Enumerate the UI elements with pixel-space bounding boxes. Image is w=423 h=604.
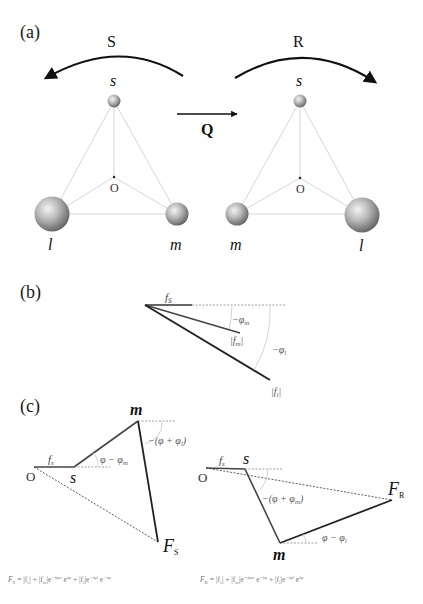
q-operator-label: Q: [201, 121, 213, 138]
fl-vector: [145, 305, 270, 380]
formula-fs: FS = |fs| + |fm|e−iφm eiφ + |fl|e−iφl e−…: [7, 575, 111, 585]
atom-s-sphere-icon: [108, 95, 121, 108]
panel-b: (b) fs −φm |fm| −φl |fl|: [20, 282, 286, 399]
origin-label: O: [26, 469, 35, 484]
r-operator-label: R: [293, 33, 304, 50]
atom-s-sphere-icon: [294, 95, 307, 108]
r-operation-arrow: R: [235, 33, 375, 82]
q-operation-arrow: Q: [177, 114, 237, 138]
phi-l-label: −φl: [272, 344, 286, 357]
atom-m-sphere-icon: [226, 203, 249, 226]
angle-phi-minus-phim-label: φ − φm: [100, 454, 128, 467]
vertex-l-label: l: [359, 237, 364, 254]
panel-b-label: (b): [20, 282, 41, 303]
s-label: s: [70, 469, 76, 486]
vertex-m-label: m: [170, 236, 182, 253]
panel-c-label: (c): [20, 396, 40, 417]
angle-phi-minus-phil-label: φ − φl: [322, 532, 347, 545]
phi-m-label: −φm: [232, 314, 249, 327]
resultant-fs: [34, 467, 158, 542]
panel-c: (c) O s m fs φ − φm −(φ + φl) FS: [20, 396, 405, 563]
fs-resultant-label: FS: [162, 536, 178, 557]
fr-structure-factor-diagram: O s m fs −(φ + φm) φ − φl FR: [198, 450, 405, 563]
center-point-icon: [113, 176, 115, 178]
atom-m-sphere-icon: [166, 203, 189, 226]
m-label: m: [273, 546, 285, 563]
fr-resultant-label: FR: [387, 479, 405, 500]
angle-arc: [260, 469, 268, 490]
center-o-label: O: [296, 182, 305, 196]
s-label: s: [243, 450, 249, 467]
fs-label: fs: [48, 453, 54, 467]
left-tetrahedron: s O l m: [35, 72, 189, 253]
angle-neg-phi-plus-phil-label: −(φ + φl): [148, 435, 187, 448]
vertex-s-label: s: [110, 72, 116, 89]
m-label: m: [130, 401, 142, 418]
atom-l-sphere-icon: [35, 197, 70, 232]
angle-arc-phi-l: [254, 305, 270, 370]
symmetry-diagram: (a) S R Q s O: [0, 0, 423, 604]
s-operator-label: S: [107, 33, 116, 50]
panel-a: (a) S R Q s O: [20, 22, 380, 254]
formula-fr: FR = |fs| + |fm|e−iφm e−iφ + |fl|e−iφl e…: [199, 575, 303, 585]
fs-segment: [206, 468, 245, 469]
vertex-l-label: l: [48, 236, 53, 253]
fm-magnitude-label: |fm|: [230, 335, 243, 348]
origin-label: O: [198, 470, 207, 485]
center-point-icon: [299, 177, 301, 179]
fs-label: fs: [165, 291, 172, 305]
fm-vector: [145, 305, 240, 333]
fl-magnitude-label: |fl|: [271, 386, 281, 399]
atom-l-sphere-icon: [345, 198, 380, 233]
right-tetrahedron: s O m l: [226, 72, 380, 254]
fs-structure-factor-diagram: O s m fs φ − φm −(φ + φl) FS: [26, 401, 187, 557]
panel-a-label: (a): [20, 22, 40, 43]
angle-arc: [303, 534, 306, 543]
curved-arrow-right-icon: [235, 58, 375, 82]
vertex-m-label: m: [230, 236, 242, 253]
formulas: FS = |fs| + |fm|e−iφm eiφ + |fl|e−iφl e−…: [7, 575, 303, 585]
center-o-label: O: [110, 181, 119, 195]
fs-label: fs: [219, 454, 225, 468]
angle-neg-phi-plus-phim-label: −(φ + φm): [262, 493, 304, 506]
vertex-s-label: s: [296, 72, 302, 89]
angle-arc: [93, 453, 98, 467]
fm-segment: [245, 469, 280, 543]
